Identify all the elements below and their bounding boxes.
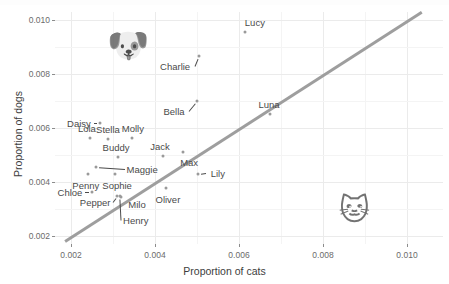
- data-point: [91, 190, 94, 193]
- x-tick-mark: [323, 244, 324, 247]
- data-point: [243, 30, 246, 33]
- point-label-molly: Molly: [122, 122, 144, 133]
- point-label-stella: Stella: [96, 123, 120, 134]
- y-tick-label: 0.002: [14, 231, 50, 241]
- data-point: [198, 54, 201, 57]
- data-point: [196, 100, 199, 103]
- y-tick-label: 0.008: [14, 69, 50, 79]
- data-point: [164, 187, 167, 190]
- data-point: [161, 155, 164, 158]
- point-label-maggie: Maggie: [127, 164, 158, 175]
- y-tick-label: 0.006: [14, 123, 50, 133]
- data-point: [182, 151, 185, 154]
- y-tick-label: 0.004: [14, 177, 50, 187]
- y-tick-mark: [52, 236, 55, 237]
- gridline-y-major: [55, 236, 443, 237]
- y-tick-label: 0.010: [14, 15, 50, 25]
- plot-panel: 🐶🐱LucyCharlieBellaLunaDaisyLolaStellaMol…: [55, 12, 443, 244]
- top-cropped-strip: [0, 0, 449, 5]
- x-tick-mark: [71, 244, 72, 247]
- data-point: [269, 112, 272, 115]
- point-label-buddy: Buddy: [103, 141, 130, 152]
- point-label-lily: Lily: [211, 167, 225, 178]
- x-tick-mark: [407, 244, 408, 247]
- data-point: [117, 155, 120, 158]
- x-tick-label: 0.008: [312, 250, 333, 260]
- x-axis-title: Proportion of cats: [0, 265, 449, 277]
- label-leader-line: [85, 192, 89, 193]
- point-label-henry: Henry: [123, 215, 148, 226]
- point-label-max: Max: [180, 157, 198, 168]
- point-label-milo: Milo: [128, 198, 145, 209]
- x-tick-label: 0.006: [228, 250, 249, 260]
- cat-face-icon: 🐱: [339, 195, 370, 225]
- scatter-plot-figure: 🐶🐱LucyCharlieBellaLunaDaisyLolaStellaMol…: [0, 0, 449, 284]
- point-label-oliver: Oliver: [156, 194, 181, 205]
- x-tick-label: 0.010: [396, 250, 417, 260]
- point-label-bella: Bella: [163, 106, 184, 117]
- y-tick-mark: [52, 128, 55, 129]
- point-label-jack: Jack: [150, 141, 170, 152]
- x-tick-mark: [239, 244, 240, 247]
- label-leader-line: [201, 173, 206, 175]
- point-label-luna: Luna: [259, 98, 280, 109]
- data-point: [130, 136, 133, 139]
- data-point: [86, 172, 89, 175]
- gridline-y-major: [55, 74, 443, 75]
- point-label-lucy: Lucy: [245, 16, 265, 27]
- dog-face-icon: 🐶: [107, 28, 149, 62]
- point-label-sophie: Sophie: [102, 179, 132, 190]
- data-point: [95, 166, 98, 169]
- y-tick-mark: [52, 20, 55, 21]
- point-label-lola: Lola: [78, 122, 96, 133]
- x-tick-mark: [155, 244, 156, 247]
- point-label-chloe: Chloe: [58, 186, 83, 197]
- data-point: [118, 195, 121, 198]
- point-label-charlie: Charlie: [160, 60, 190, 71]
- gridline-y-minor: [55, 101, 443, 102]
- label-leader-line: [188, 104, 195, 112]
- data-point: [196, 172, 199, 175]
- data-point: [114, 172, 117, 175]
- y-tick-mark: [52, 182, 55, 183]
- data-point: [88, 136, 91, 139]
- x-tick-label: 0.002: [60, 250, 81, 260]
- data-point: [106, 137, 109, 140]
- point-label-pepper: Pepper: [80, 196, 111, 207]
- y-tick-mark: [52, 74, 55, 75]
- x-tick-label: 0.004: [144, 250, 165, 260]
- gridline-y-minor: [55, 155, 443, 156]
